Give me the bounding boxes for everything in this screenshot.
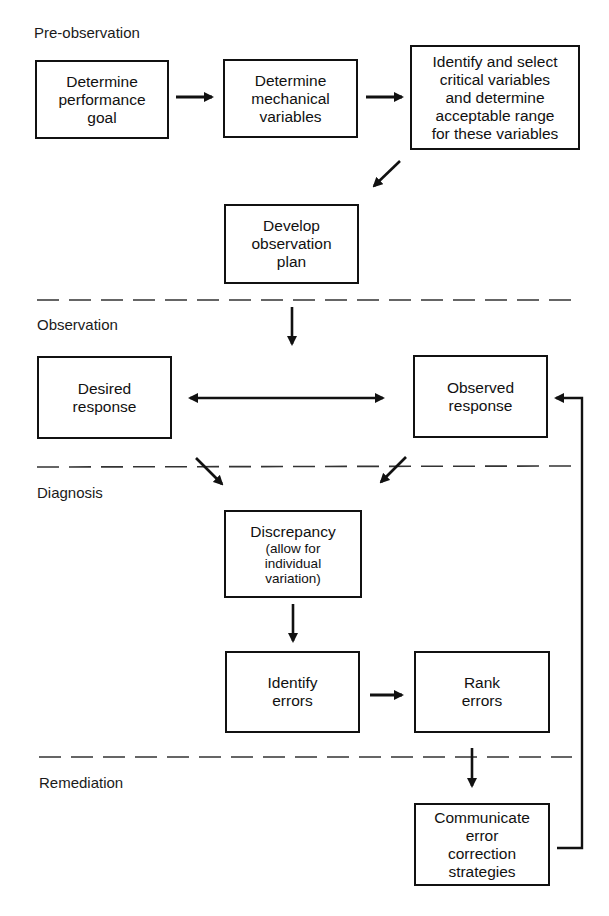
node-communicate-error-correction: Communicate error correction strategies	[414, 803, 550, 886]
node-text: Desired	[78, 380, 131, 398]
node-text: response	[73, 398, 137, 416]
node-text: Develop	[263, 217, 320, 235]
node-text: Determine	[255, 72, 327, 90]
node-text: strategies	[448, 863, 515, 881]
arrow-observed-to-discrepancy	[381, 457, 406, 482]
node-text: Observed	[447, 379, 514, 397]
arrow-desired-to-discrepancy	[196, 458, 222, 484]
node-determine-mechanical-variables: Determine mechanical variables	[223, 59, 358, 138]
node-text: Determine	[66, 73, 138, 91]
node-text: performance	[58, 91, 145, 109]
node-text: errors	[462, 692, 502, 710]
node-text: for these variables	[432, 125, 559, 143]
flowchart-canvas: Pre-observation Observation Diagnosis Re…	[0, 0, 609, 916]
arrow-critical-to-plan	[374, 161, 400, 186]
node-text: mechanical	[251, 90, 329, 108]
node-text: acceptable range	[436, 107, 555, 125]
node-text: Communicate	[434, 809, 530, 827]
node-text: variables	[259, 108, 321, 126]
node-rank-errors: Rank errors	[414, 651, 550, 733]
node-discrepancy: Discrepancy (allow for individual variat…	[224, 510, 362, 598]
node-text: Identify	[268, 674, 318, 692]
node-text: errors	[272, 692, 312, 710]
node-text: error	[466, 827, 499, 845]
node-desired-response: Desired response	[37, 356, 172, 439]
node-identify-critical-variables: Identify and select critical variables a…	[410, 45, 580, 150]
node-text: Identify and select	[433, 53, 558, 71]
phase-divider-diagnosis	[37, 466, 572, 467]
node-develop-observation-plan: Develop observation plan	[224, 204, 359, 284]
node-text: variation)	[265, 571, 321, 586]
node-text: critical variables	[440, 71, 550, 89]
node-text: and determine	[445, 89, 544, 107]
node-text: plan	[277, 253, 306, 271]
node-determine-performance-goal: Determine performance goal	[35, 60, 169, 139]
node-observed-response: Observed response	[413, 355, 548, 438]
node-text: goal	[87, 109, 116, 127]
node-text: (allow for	[266, 541, 321, 556]
node-text: correction	[448, 845, 516, 863]
node-text: response	[449, 397, 513, 415]
node-text: individual	[265, 556, 321, 571]
node-text: observation	[251, 235, 331, 253]
node-identify-errors: Identify errors	[225, 651, 360, 733]
node-text: Rank	[464, 674, 500, 692]
node-title: Discrepancy	[250, 523, 335, 541]
